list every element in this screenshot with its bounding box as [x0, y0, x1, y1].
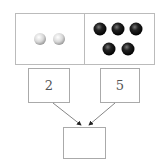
right-arrow	[89, 103, 115, 125]
black-balls	[94, 23, 143, 56]
white-balls	[34, 33, 65, 45]
left-number: 2	[28, 78, 70, 93]
right-number: 5	[100, 78, 140, 93]
diagram-canvas	[0, 0, 166, 167]
left-arrow	[53, 103, 81, 125]
result-box	[64, 128, 106, 159]
